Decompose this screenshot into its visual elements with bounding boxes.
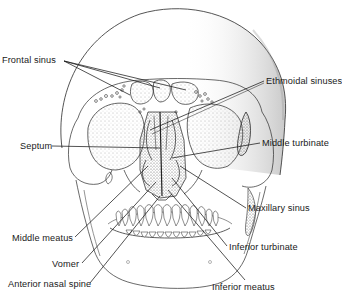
- teeth: [108, 205, 232, 264]
- label-septum: Septum: [20, 142, 52, 151]
- label-anterior-nasal-spine: Anterior nasal spine: [8, 280, 91, 289]
- label-middle-turbinate: Middle turbinate: [262, 139, 329, 148]
- label-ethmoidal-sinuses: Ethmoidal sinuses: [266, 77, 342, 86]
- label-inferior-meatus: Inferior meatus: [212, 283, 275, 292]
- label-frontal-sinus: Frontal sinus: [2, 56, 56, 65]
- label-vomer: Vomer: [52, 260, 79, 269]
- leader-maxillary-sinus: [180, 166, 246, 208]
- label-maxillary-sinus: Maxillary sinus: [248, 204, 310, 213]
- label-inferior-turbinate: Inferior turbinate: [229, 243, 298, 252]
- label-middle-meatus: Middle meatus: [12, 234, 73, 243]
